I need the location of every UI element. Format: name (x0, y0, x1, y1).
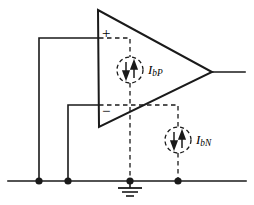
node-dot (126, 177, 133, 184)
circuit-diagram-canvas: + − IbP IbN (0, 0, 254, 205)
ibn-source-label: IbN (196, 133, 211, 148)
ibp-source-label: IbP (148, 63, 163, 78)
schematic-svg (0, 0, 254, 205)
ibp-label-subscript: bP (152, 68, 162, 78)
inverting-input-sign: − (102, 104, 110, 119)
current-source-ibn (165, 127, 191, 153)
noninverting-input-sign: + (102, 26, 110, 41)
wire-noninverting-input (39, 38, 99, 181)
ibn-label-subscript: bN (200, 138, 211, 148)
node-dot (64, 177, 71, 184)
current-source-ibp (117, 57, 143, 83)
ibn-source-circle (165, 127, 191, 153)
node-dot (35, 177, 42, 184)
ibp-source-circle (117, 57, 143, 83)
wire-inverting-input (68, 105, 99, 181)
node-dot (174, 177, 181, 184)
